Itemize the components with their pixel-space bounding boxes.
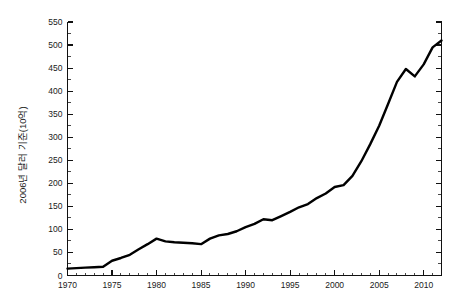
y-tick-label-300: 300	[48, 132, 62, 142]
x-tick-label-2000: 2000	[325, 280, 344, 290]
x-tick-label-1985: 1985	[192, 280, 211, 290]
y-axis-tick-labels: 050100150200250300350400450500550	[48, 17, 62, 281]
x-tick-label-2005: 2005	[370, 280, 389, 290]
x-tick-label-2010: 2010	[414, 280, 433, 290]
y-tick-label-100: 100	[48, 224, 62, 234]
x-axis-ticks	[68, 270, 442, 276]
y-axis-title: 2006년 달러 기준(10억)	[17, 106, 28, 203]
y-tick-label-550: 550	[48, 17, 62, 27]
y-tick-label-450: 450	[48, 63, 62, 73]
y-tick-label-250: 250	[48, 155, 62, 165]
y-tick-label-500: 500	[48, 40, 62, 50]
data-series-line	[68, 40, 442, 268]
chart-container: 2006년 달러 기준(10억) 05010015020025030035040…	[0, 0, 468, 306]
line-chart: 2006년 달러 기준(10억) 05010015020025030035040…	[0, 0, 468, 306]
y-tick-label-50: 50	[53, 247, 63, 257]
y-tick-label-150: 150	[48, 201, 62, 211]
y-axis-ticks-right	[436, 22, 442, 276]
y-axis-ticks-left	[68, 22, 74, 276]
x-tick-label-1975: 1975	[103, 280, 122, 290]
y-tick-label-400: 400	[48, 86, 62, 96]
y-axis-title-group: 2006년 달러 기준(10억)	[17, 106, 28, 203]
y-tick-label-350: 350	[48, 109, 62, 119]
x-tick-label-1980: 1980	[147, 280, 166, 290]
x-tick-label-1970: 1970	[58, 280, 77, 290]
x-tick-label-1990: 1990	[236, 280, 255, 290]
x-tick-label-1995: 1995	[281, 280, 300, 290]
x-axis-tick-labels: 197019751980198519901995200020052010	[58, 280, 433, 290]
y-tick-label-200: 200	[48, 178, 62, 188]
